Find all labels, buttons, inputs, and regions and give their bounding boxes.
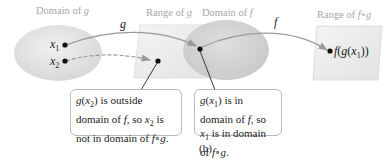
- point-f-g-x1: [327, 48, 332, 53]
- point-x1: [62, 42, 67, 47]
- label-x1: x1: [50, 37, 59, 53]
- callout-g-x2: g(x2) is outside domain of f, so x2 is n…: [70, 89, 182, 136]
- callout-g-x1: g(x1) is in domain of f, so x1 is in dom…: [194, 89, 282, 136]
- function-g-label: g: [120, 17, 126, 32]
- figure-caption: (b): [199, 142, 212, 154]
- label-f-g-x1: f(g(x1)): [334, 44, 369, 60]
- point-g-x2: [155, 58, 160, 63]
- label-range-fg: Range of f∘g: [317, 8, 371, 20]
- diagram-canvas: [0, 0, 385, 161]
- point-g-x1: [197, 46, 202, 51]
- domain-f-ellipse: [183, 20, 269, 80]
- point-x2: [62, 58, 67, 63]
- label-x2: x2: [50, 54, 59, 70]
- label-range-g: Range of g: [146, 7, 192, 18]
- label-domain-f: Domain of f: [202, 7, 253, 18]
- function-f-label: f: [274, 15, 277, 30]
- label-domain-g: Domain of g: [36, 5, 89, 16]
